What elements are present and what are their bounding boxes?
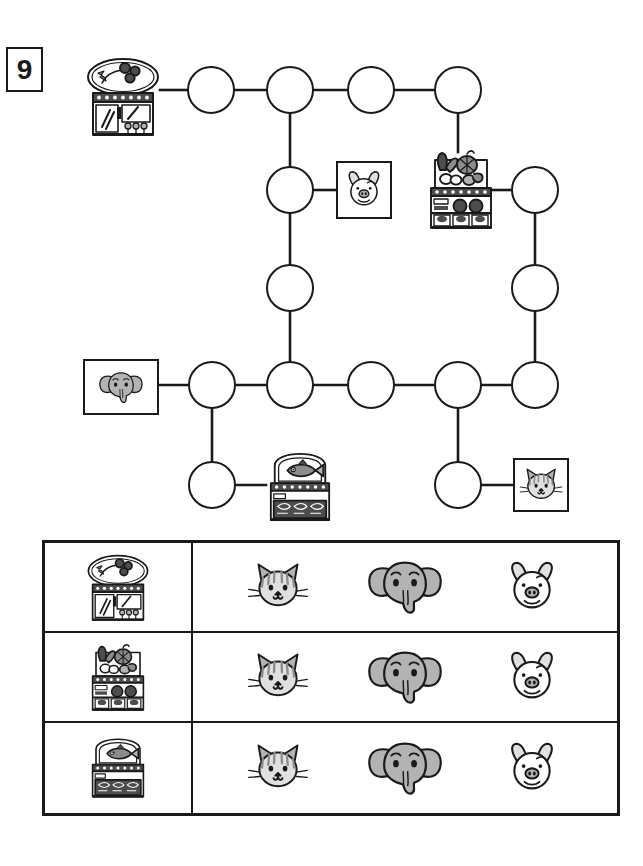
table-cell-animals [193,543,617,631]
table-row [45,723,617,813]
elephant-box[interactable] [83,359,159,415]
pig-face-icon [501,740,563,796]
node-top-3[interactable] [347,66,395,114]
node-top-4[interactable] [434,66,482,114]
cat-face-icon [247,741,309,794]
table-row [45,633,617,723]
answer-slot-pig[interactable] [501,559,563,615]
cat-face-icon [247,650,309,703]
cat-box[interactable] [513,458,569,512]
table-cell-shop [45,543,193,631]
elephant-face-icon [366,737,444,799]
answer-slot-pig[interactable] [501,740,563,796]
vegetable-shop-icon [422,148,500,230]
node-row-4[interactable] [434,361,482,409]
cat-face-icon [519,466,563,504]
answer-slot-elephant[interactable] [366,646,444,708]
pig-box[interactable] [336,161,392,219]
answer-slot-cat[interactable] [247,741,309,794]
fish-shop-icon [85,732,151,804]
node-top-1[interactable] [187,66,235,114]
node-mid-right-2[interactable] [511,264,559,312]
table-row [45,543,617,633]
node-row-2[interactable] [266,361,314,409]
answer-slot-cat[interactable] [247,650,309,703]
cat-face-icon [247,560,309,613]
pig-face-icon [341,169,387,210]
node-top-2[interactable] [266,66,314,114]
maze-diagram [0,0,643,525]
node-bottom-right[interactable] [434,461,482,509]
answer-slot-pig[interactable] [501,649,563,705]
table-cell-animals [193,723,617,813]
table-cell-shop [45,633,193,721]
node-mid-right-1[interactable] [511,166,559,214]
elephant-face-icon [366,646,444,708]
elephant-face-icon [366,556,444,618]
elephant-face-icon [98,369,144,406]
node-mid-left-2[interactable] [266,264,314,312]
node-bottom-left[interactable] [188,461,236,509]
node-row-5[interactable] [511,361,559,409]
fish-shop-icon [261,452,339,522]
flower-shop-icon [84,55,162,137]
node-mid-left-1[interactable] [266,166,314,214]
answer-slot-elephant[interactable] [366,737,444,799]
answer-slot-elephant[interactable] [366,556,444,618]
node-row-1[interactable] [188,361,236,409]
node-row-3[interactable] [347,361,395,409]
answer-slot-cat[interactable] [247,560,309,613]
vegetable-shop-icon [85,641,151,713]
pig-face-icon [501,559,563,615]
flower-shop-icon [85,551,151,623]
pig-face-icon [501,649,563,705]
table-cell-animals [193,633,617,721]
answer-table [42,540,620,816]
table-cell-shop [45,723,193,813]
